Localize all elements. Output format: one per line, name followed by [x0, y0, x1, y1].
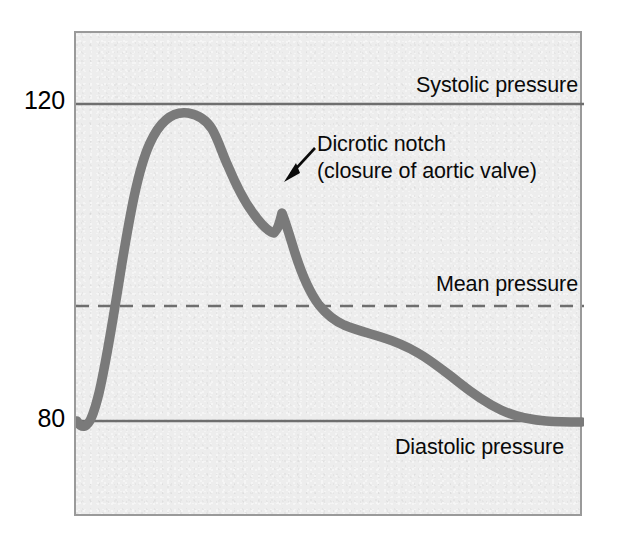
dicrotic-notch-line-2: (closure of aortic valve)	[317, 158, 537, 185]
pressure-waveform-figure: 120 80 Systolic pressure Mean pressure D…	[0, 0, 621, 548]
y-axis-tick-120: 120	[24, 86, 65, 115]
systolic-pressure-label: Systolic pressure	[416, 72, 578, 99]
y-axis-tick-80: 80	[38, 404, 65, 433]
dicrotic-notch-arrow	[284, 148, 315, 182]
dicrotic-notch-line-1: Dicrotic notch	[317, 131, 537, 158]
dicrotic-notch-annotation: Dicrotic notch (closure of aortic valve)	[317, 131, 537, 185]
diastolic-pressure-label: Diastolic pressure	[395, 434, 564, 461]
mean-pressure-label: Mean pressure	[436, 271, 578, 298]
